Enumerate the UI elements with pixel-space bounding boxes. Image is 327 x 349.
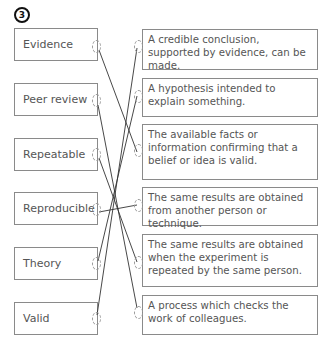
term-connector-dot[interactable] bbox=[92, 257, 101, 270]
definition-connector-dot[interactable] bbox=[134, 199, 143, 212]
match-line-evidence bbox=[99, 50, 137, 152]
definition-connector-dot[interactable] bbox=[134, 144, 143, 157]
matching-lines bbox=[0, 0, 327, 349]
definition-connector-dot[interactable] bbox=[134, 256, 143, 269]
term-connector-dot[interactable] bbox=[92, 312, 101, 325]
term-connector-dot[interactable] bbox=[92, 148, 101, 161]
definition-connector-dot[interactable] bbox=[134, 40, 143, 53]
term-connector-dot[interactable] bbox=[92, 40, 101, 53]
term-connector-dot[interactable] bbox=[92, 94, 101, 107]
definition-connector-dot[interactable] bbox=[134, 306, 143, 319]
definition-connector-dot[interactable] bbox=[134, 90, 143, 103]
term-connector-dot[interactable] bbox=[92, 203, 101, 216]
